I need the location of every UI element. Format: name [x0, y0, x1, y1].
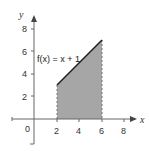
y-tick-label-8: 8 [22, 24, 27, 34]
y-tick-label-6: 6 [22, 47, 27, 57]
y-tick-label-2: 2 [22, 92, 27, 102]
y-tick-label-4: 4 [22, 69, 27, 79]
y-axis-arrow-icon [31, 15, 37, 22]
chart-canvas: y x 8 6 4 2 0 2 4 6 8 f(x) = x + 1 [0, 0, 149, 151]
function-label: f(x) = x + 1 [37, 54, 80, 64]
x-axis-label: x [139, 114, 145, 125]
x-tick-label-6: 6 [99, 126, 104, 136]
x-tick-label-2: 2 [54, 126, 59, 136]
x-axis-arrow-icon [130, 116, 137, 122]
x-tick-label-8: 8 [121, 126, 126, 136]
x-tick-label-4: 4 [76, 126, 81, 136]
origin-label: 0 [25, 124, 30, 134]
shaded-area [57, 40, 102, 119]
y-axis-label: y [18, 9, 24, 20]
